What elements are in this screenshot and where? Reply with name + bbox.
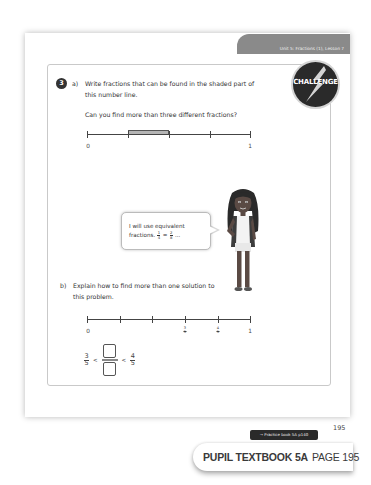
number-line-a [87,128,251,142]
tick [87,131,88,138]
denominator-answer-box[interactable] [103,362,116,376]
question-number-badge: 3 [56,78,67,89]
challenge-label: CHALLENGE [293,78,338,86]
speech-bubble-tail-fill [209,226,217,234]
label-one: 1 [248,328,252,334]
part-a-instruction-line1: Write fractions that can be found in the… [85,78,254,89]
label-four-fifths: 45 [217,327,220,335]
practice-book-link[interactable]: → Practice book 5A p140 [250,430,318,440]
part-b-label: b) [60,282,66,289]
tick [87,316,88,323]
label-zero: 0 [86,328,90,334]
numerator-answer-box[interactable] [103,344,116,358]
tick [185,316,186,323]
tick [250,131,251,138]
question-box: 3 a) Write fractions that can be found i… [47,64,331,386]
speech-bubble: I will use equivalent fractions. 14 = 28… [121,212,211,250]
textbook-page-footer: PUPIL TEXTBOOK 5A PAGE 195 [193,443,353,471]
page-label: PAGE 195 [312,451,359,463]
speech-line2: fractions. 14 = 28 ... [129,231,210,240]
number-line-axis [87,319,251,320]
answer-fraction [102,344,118,376]
fraction-inequality: 35 < < 45 [84,340,135,380]
girl-character-illustration [218,187,268,297]
part-b-instruction-line1: Explain how to find more than one soluti… [73,280,214,291]
label-three-fifths: 35 [184,327,187,335]
part-b-instruction-line2: this problem. [73,291,114,302]
unit-lesson-tab: Unit 5: Fractions (1), Lesson 7 [237,34,350,54]
challenge-badge: CHALLENGE [293,62,338,107]
page-number: 195 [333,424,345,432]
tick [250,316,251,323]
label-one: 1 [248,143,252,149]
fraction-three-fifths: 35 [84,353,89,368]
part-a-label: a) [72,80,78,87]
tick [218,316,219,323]
fraction-bar [102,359,118,361]
tick [210,131,211,138]
tick [120,316,121,323]
tick [152,316,153,323]
fraction-two-eighths: 28 [170,231,173,239]
book-title: PUPIL TEXTBOOK 5A [203,451,308,463]
number-line-b [87,313,251,327]
label-zero: 0 [86,143,90,149]
less-than-sign: < [93,357,98,363]
less-than-sign: < [122,357,127,363]
part-a-instruction-line2: this number line. [85,89,138,100]
fraction-one-quarter: 14 [157,231,160,239]
fraction-four-fifths: 45 [130,353,135,368]
part-a-prompt: Can you find more than three different f… [85,109,237,120]
tick [169,131,170,138]
textbook-page: Unit 5: Fractions (1), Lesson 7 3 a) Wri… [25,33,350,417]
tick [128,131,129,138]
